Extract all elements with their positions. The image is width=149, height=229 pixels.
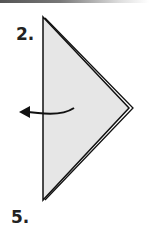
step-number-5: 5. — [11, 207, 29, 227]
origami-diagram: 2. 5. — [0, 0, 149, 229]
triangle-paper — [43, 17, 129, 200]
folded-triangle-figure — [0, 0, 149, 229]
